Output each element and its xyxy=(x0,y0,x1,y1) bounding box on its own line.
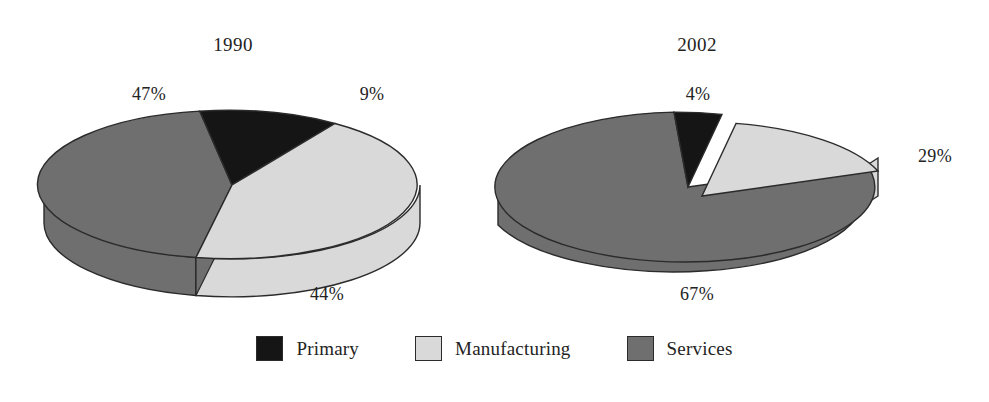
legend-item-manufacturing: Manufacturing xyxy=(415,336,571,361)
legend-swatch-services-icon xyxy=(627,336,654,361)
pie-1-label-manufacturing: 44% xyxy=(310,284,344,305)
legend-item-primary: Primary xyxy=(256,336,359,361)
pie-2-label-primary: 4% xyxy=(686,84,711,105)
pie-1-title: 1990 xyxy=(213,34,253,56)
chart-canvas: 1990 47% 9% 44% xyxy=(0,0,989,402)
pie-2-label-services: 67% xyxy=(680,284,714,305)
pie-1-label-services: 47% xyxy=(132,84,166,105)
legend-item-services: Services xyxy=(627,336,733,361)
chart-legend: Primary Manufacturing Services xyxy=(0,336,989,361)
pie-chart-2002 xyxy=(460,95,920,290)
pie-2-label-manufacturing: 29% xyxy=(918,146,952,167)
pie-2-title: 2002 xyxy=(677,34,717,56)
legend-label-primary: Primary xyxy=(296,338,359,360)
legend-label-manufacturing: Manufacturing xyxy=(455,338,571,360)
legend-label-services: Services xyxy=(667,338,733,360)
legend-swatch-manufacturing-icon xyxy=(415,336,442,361)
pie-chart-1990 xyxy=(0,95,460,285)
pie-1-label-primary: 9% xyxy=(360,84,385,105)
legend-swatch-primary-icon xyxy=(256,336,283,361)
